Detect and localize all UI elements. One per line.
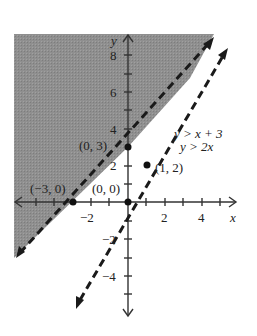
tick-label-y-6: 6 [110, 85, 117, 100]
point-label-neg3-0: (−3, 0) [30, 181, 66, 196]
tick-label-x-4: 4 [198, 210, 205, 225]
inequality-label-2: y > 2x [178, 139, 214, 154]
tick-label-y-neg2: −2 [102, 232, 116, 247]
point-0-0 [125, 199, 132, 206]
point-1-2 [144, 162, 151, 169]
tick-label-x-neg2: −2 [80, 210, 94, 225]
x-axis-label: x [229, 210, 236, 225]
point-label-1-2: (1, 2) [155, 160, 183, 175]
tick-label-y-8: 8 [110, 48, 117, 63]
tick-label-y-2: 2 [110, 158, 117, 173]
point-label-0-3: (0, 3) [79, 138, 107, 153]
y-axis-label: y [109, 33, 117, 48]
point-label-0-0: (0, 0) [92, 181, 120, 196]
tick-label-y-neg4: −4 [102, 269, 116, 284]
point-neg3-0 [70, 199, 77, 206]
tick-label-y-4: 4 [110, 122, 117, 137]
tick-label-x-2: 2 [161, 210, 168, 225]
point-0-3 [125, 144, 132, 151]
inequality-graph: y x 8 6 4 2 −2 −4 −2 2 4 (0, 3) (−3, 0) … [0, 0, 257, 336]
